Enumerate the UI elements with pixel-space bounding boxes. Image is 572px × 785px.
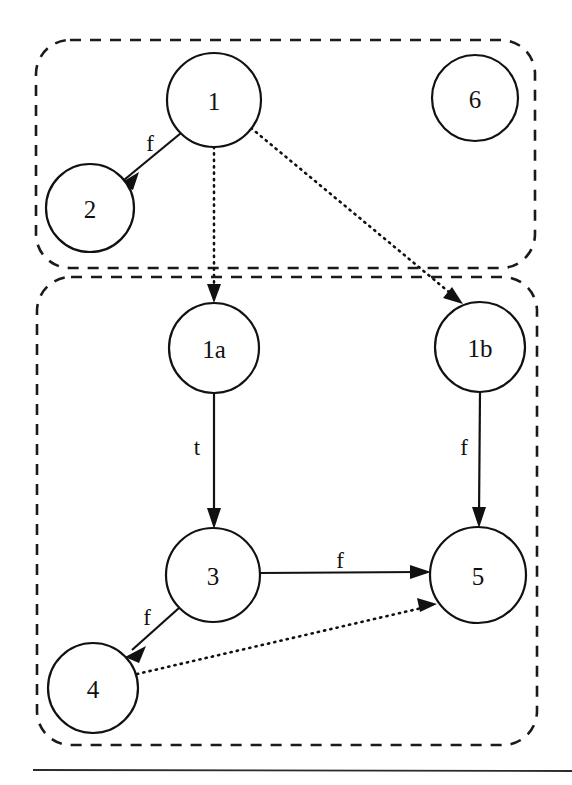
edge-label-1b-to-5: f <box>460 435 468 460</box>
edge-label-3-to-4: f <box>143 605 151 630</box>
edge-3-to-4-line <box>132 608 179 650</box>
edge-3-to-5: f <box>260 548 431 580</box>
edge-label-1-to-2: f <box>146 131 154 156</box>
node-1b[interactable]: 1b <box>435 302 525 392</box>
edge-1-to-1b-arrowhead <box>443 287 463 304</box>
edge-1a-to-3: t <box>194 393 221 529</box>
edge-4-to-5-line <box>137 607 426 674</box>
node-1a[interactable]: 1a <box>169 303 259 393</box>
graph-diagram: f t f <box>0 0 572 785</box>
node-2-label: 2 <box>84 196 97 223</box>
edge-1-to-1a <box>207 147 221 303</box>
diagram-canvas: f t f <box>0 0 572 785</box>
edge-4-to-5-arrowhead <box>417 598 437 612</box>
node-2[interactable]: 2 <box>46 164 134 252</box>
edge-1-to-1b-line <box>251 128 455 297</box>
footer-rule <box>33 770 572 771</box>
node-3[interactable]: 3 <box>166 528 260 622</box>
node-4[interactable]: 4 <box>48 643 138 733</box>
node-6[interactable]: 6 <box>432 55 518 141</box>
edge-1b-to-5: f <box>460 392 486 528</box>
node-5-label: 5 <box>472 563 485 590</box>
edge-1a-to-3-arrowhead <box>207 508 221 529</box>
node-1a-label: 1a <box>202 336 226 363</box>
node-4-label: 4 <box>87 676 100 703</box>
edge-1b-to-5-arrowhead <box>472 507 486 528</box>
edge-3-to-4: f <box>125 605 179 664</box>
edge-1b-to-5-line <box>479 392 480 517</box>
edge-1-to-1a-arrowhead <box>207 284 221 303</box>
edge-1-to-2: f <box>119 131 181 191</box>
node-5[interactable]: 5 <box>430 527 526 623</box>
edge-label-1a-to-3: t <box>194 435 201 460</box>
node-3-label: 3 <box>207 563 220 590</box>
nodes-layer: 1 2 6 1a 1b 3 <box>46 53 526 733</box>
node-6-label: 6 <box>469 86 482 113</box>
edge-label-3-to-5: f <box>336 548 344 573</box>
node-1[interactable]: 1 <box>167 53 261 147</box>
node-1b-label: 1b <box>468 335 493 362</box>
node-1-label: 1 <box>208 88 221 115</box>
edge-3-to-5-arrowhead <box>410 565 431 579</box>
